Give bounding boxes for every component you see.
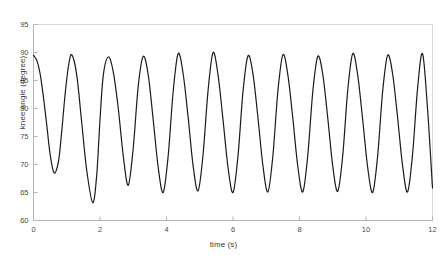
x-tick-label: 4 [164, 225, 168, 234]
chart-plot-area: 6065707580859095 024681012 [0, 0, 447, 261]
x-tick-label: 0 [31, 225, 35, 234]
knee-angle-curve [34, 52, 433, 202]
y-axis-label: knee angle (degree) [18, 33, 27, 153]
x-tick-label: 2 [98, 225, 102, 234]
x-tick-label: 6 [231, 225, 235, 234]
y-tick-label: 95 [20, 20, 28, 29]
x-axis-label: time (s) [0, 240, 447, 249]
figure-container: 6065707580859095 024681012 knee angle (d… [0, 0, 447, 261]
y-tick-label: 65 [20, 188, 28, 197]
x-tick-label: 12 [428, 225, 436, 234]
data-series-group [34, 52, 433, 202]
y-tick-label: 70 [20, 160, 28, 169]
y-tick-label: 60 [20, 216, 28, 225]
x-tick-label: 8 [297, 225, 301, 234]
x-axis-ticks: 024681012 [31, 217, 436, 234]
x-tick-label: 10 [362, 225, 370, 234]
